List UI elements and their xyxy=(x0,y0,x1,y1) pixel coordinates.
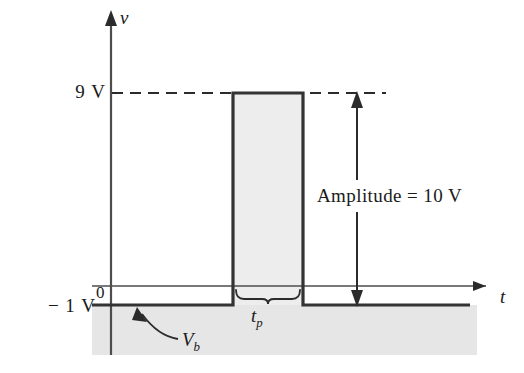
v-axis-label: v xyxy=(120,8,128,27)
v-axis-arrowhead xyxy=(105,10,117,26)
amplitude-label: Amplitude = 10 V xyxy=(317,186,462,205)
bias-voltage-subscript: b xyxy=(194,339,200,354)
origin-label: 0 xyxy=(96,284,105,301)
pulse-waveform-figure: 9 V − 1 V 0 v t Amplitude = 10 V tp Vb xyxy=(0,0,524,373)
pulse-shaded-region xyxy=(233,94,303,305)
bias-voltage-symbol: V xyxy=(182,329,194,350)
y-axis-label-negative-1v: − 1 V xyxy=(14,296,96,315)
y-axis-label-9v: 9 V xyxy=(44,82,106,101)
pulse-width-label: tp xyxy=(251,306,263,330)
t-axis-arrowhead xyxy=(473,281,486,291)
bias-shaded-region xyxy=(92,305,477,355)
pulse-width-subscript: p xyxy=(256,315,262,330)
bias-voltage-label: Vb xyxy=(182,330,200,354)
t-axis-label: t xyxy=(500,287,505,306)
